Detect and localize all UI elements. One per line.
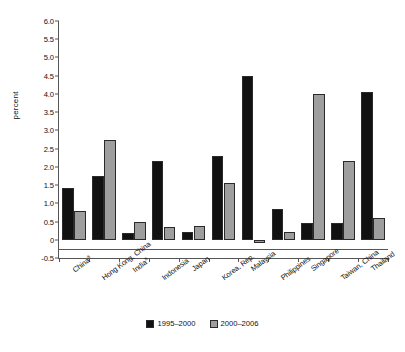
bar <box>164 227 176 240</box>
bar <box>343 161 355 239</box>
legend-swatch-icon <box>210 320 218 328</box>
y-tick-label: 5.5 <box>26 35 54 44</box>
bar <box>301 223 313 239</box>
bar <box>272 209 284 240</box>
legend-swatch-icon <box>146 320 154 328</box>
bar-group <box>59 21 89 258</box>
bar <box>242 76 254 239</box>
y-tick-label: 2.0 <box>26 162 54 171</box>
y-tick-label: 4.0 <box>26 89 54 98</box>
bar <box>92 176 104 240</box>
bar <box>134 222 146 240</box>
y-tick-label: -0.5 <box>26 254 54 263</box>
legend-item[interactable]: 2000–2006 <box>210 319 259 328</box>
bar <box>104 140 116 240</box>
y-axis-title: percent <box>11 106 20 120</box>
y-tick-label: 3.0 <box>26 126 54 135</box>
bar-group <box>179 21 209 258</box>
y-tick-label: 1.0 <box>26 199 54 208</box>
y-tick-label: 1.5 <box>26 181 54 190</box>
x-tick-label: Indonesia <box>160 256 190 282</box>
bar <box>74 211 86 240</box>
y-tick-label: 5.0 <box>26 53 54 62</box>
bar <box>313 94 325 240</box>
bar <box>182 232 194 239</box>
x-tick-mark <box>59 258 60 262</box>
bar-group <box>328 21 358 258</box>
legend-label: 2000–2006 <box>221 319 259 328</box>
bar <box>212 156 224 240</box>
x-axis-line <box>58 258 388 259</box>
y-tick-label: 4.5 <box>26 71 54 80</box>
bar <box>62 188 74 240</box>
bar <box>194 226 206 240</box>
bar-group <box>238 21 268 258</box>
y-tick-label: 0.5 <box>26 217 54 226</box>
chart-legend: 1995–20002000–2006 <box>0 319 405 328</box>
y-tick-label: 2.5 <box>26 144 54 153</box>
bar <box>224 183 236 240</box>
plot-area <box>59 21 388 258</box>
bar-group <box>209 21 239 258</box>
bar <box>284 232 296 239</box>
legend-label: 1995–2000 <box>157 319 195 328</box>
bar-group <box>298 21 328 258</box>
bar <box>373 218 385 240</box>
bar <box>254 240 266 243</box>
y-tick-label: 6.0 <box>26 17 54 26</box>
bar-group <box>358 21 388 258</box>
bar-group <box>268 21 298 258</box>
bar-group <box>89 21 119 258</box>
y-tick-label: 0 <box>26 235 54 244</box>
bar-group <box>149 21 179 258</box>
bar <box>122 233 134 240</box>
legend-item[interactable]: 1995–2000 <box>146 319 195 328</box>
y-tick-label: 3.5 <box>26 108 54 117</box>
bar-group <box>119 21 149 258</box>
bar <box>152 161 164 239</box>
bar <box>331 223 343 239</box>
bar <box>361 92 373 240</box>
bar-chart: percent 6.05.55.04.54.03.53.02.52.01.51.… <box>0 0 405 352</box>
